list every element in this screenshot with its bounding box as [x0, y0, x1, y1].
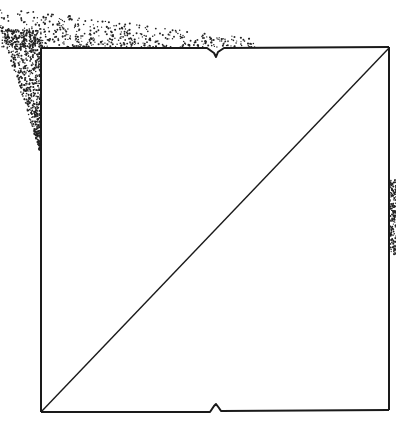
- stipple-shading: [0, 9, 396, 255]
- folded-square-diagram: [0, 0, 396, 440]
- top-edge: [41, 47, 389, 57]
- diagonal-line: [41, 48, 389, 412]
- bottom-edge: [41, 404, 389, 412]
